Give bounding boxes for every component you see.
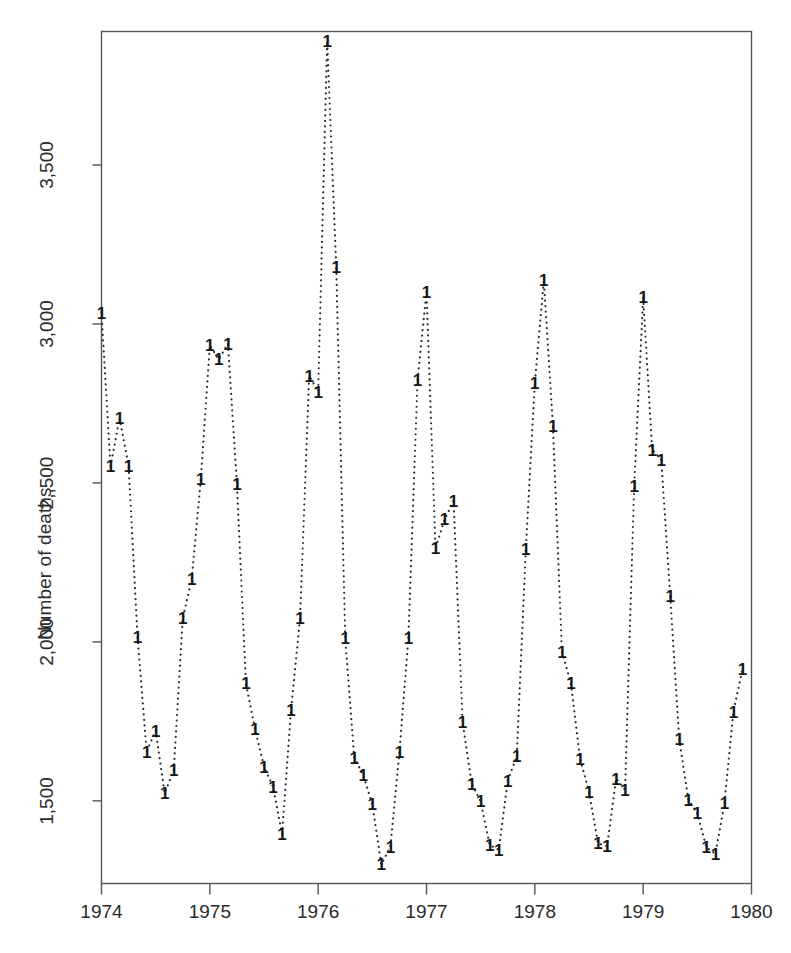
data-point-marker: 1 <box>494 841 503 860</box>
data-point-marker: 1 <box>575 750 584 769</box>
data-point-marker: 1 <box>386 838 395 857</box>
x-axis-ticks <box>102 884 752 895</box>
data-point-marker: 1 <box>160 784 169 803</box>
data-point-marker: 1 <box>178 609 187 628</box>
data-point-marker: 1 <box>359 766 368 785</box>
data-point-marker: 1 <box>647 441 656 460</box>
data-point-marker: 1 <box>196 470 205 489</box>
data-point-marker: 1 <box>413 371 422 390</box>
data-point-marker: 1 <box>584 783 593 802</box>
data-point-marker: 1 <box>476 792 485 811</box>
data-point-marker: 1 <box>214 350 223 369</box>
data-point-marker: 1 <box>277 825 286 844</box>
data-point-marker: 1 <box>729 703 738 722</box>
data-point-marker: 1 <box>431 539 440 558</box>
data-point-marker: 1 <box>548 417 557 436</box>
data-point-marker: 1 <box>458 713 467 732</box>
data-point-marker: 1 <box>702 838 711 857</box>
data-point-marker: 1 <box>566 674 575 693</box>
data-point-marker: 1 <box>711 845 720 864</box>
data-point-marker: 1 <box>675 730 684 749</box>
plot-canvas: 1111111111111111111111111111111111111111… <box>0 0 791 953</box>
data-point-marker: 1 <box>521 540 530 559</box>
series-dotted-line <box>102 41 743 865</box>
data-point-marker: 1 <box>395 743 404 762</box>
data-point-marker: 1 <box>738 660 747 679</box>
data-point-marker: 1 <box>404 629 413 648</box>
data-point-marker: 1 <box>720 794 729 813</box>
data-point-marker: 1 <box>268 778 277 797</box>
data-point-marker: 1 <box>512 747 521 766</box>
data-point-marker: 1 <box>602 837 611 856</box>
data-point-marker: 1 <box>142 743 151 762</box>
data-point-marker: 1 <box>693 804 702 823</box>
data-point-marker: 1 <box>332 258 341 277</box>
data-point-marker: 1 <box>440 510 449 529</box>
data-point-marker: 1 <box>223 335 232 354</box>
data-point-marker: 1 <box>657 451 666 470</box>
data-point-marker: 1 <box>350 749 359 768</box>
series-point-markers: 1111111111111111111111111111111111111111… <box>97 32 747 875</box>
data-point-marker: 1 <box>503 772 512 791</box>
data-point-marker: 1 <box>169 761 178 780</box>
data-point-marker: 1 <box>539 271 548 290</box>
data-point-marker: 1 <box>106 457 115 476</box>
data-point-marker: 1 <box>295 609 304 628</box>
chart-figure: Number of deaths 1,5002,0002,,5003,0003,… <box>0 0 791 953</box>
data-point-marker: 1 <box>259 758 268 777</box>
data-point-marker: 1 <box>187 570 196 589</box>
data-point-marker: 1 <box>449 492 458 511</box>
data-point-marker: 1 <box>557 643 566 662</box>
data-point-marker: 1 <box>638 288 647 307</box>
data-point-marker: 1 <box>666 587 675 606</box>
data-point-marker: 1 <box>286 701 295 720</box>
data-point-marker: 1 <box>593 834 602 853</box>
data-point-marker: 1 <box>530 374 539 393</box>
data-point-marker: 1 <box>368 795 377 814</box>
data-point-marker: 1 <box>151 722 160 741</box>
data-point-marker: 1 <box>322 32 331 51</box>
y-axis-ticks <box>93 165 102 801</box>
data-point-marker: 1 <box>313 383 322 402</box>
data-point-marker: 1 <box>115 409 124 428</box>
data-point-marker: 1 <box>133 628 142 647</box>
series-path <box>102 41 743 865</box>
data-point-marker: 1 <box>341 629 350 648</box>
data-point-marker: 1 <box>124 457 133 476</box>
data-point-marker: 1 <box>620 781 629 800</box>
data-point-marker: 1 <box>629 477 638 496</box>
data-point-marker: 1 <box>467 775 476 794</box>
data-point-marker: 1 <box>422 283 431 302</box>
data-point-marker: 1 <box>232 475 241 494</box>
data-point-marker: 1 <box>377 855 386 874</box>
data-point-marker: 1 <box>97 304 106 323</box>
data-point-marker: 1 <box>250 720 259 739</box>
data-point-marker: 1 <box>241 674 250 693</box>
data-point-marker: 1 <box>485 836 494 855</box>
